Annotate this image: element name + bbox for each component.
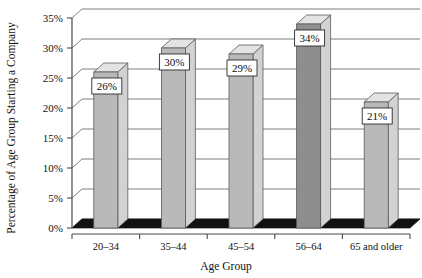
value-label-5: 21% bbox=[362, 108, 392, 124]
chart-canvas: 0%5%10%15%20%25%30%35% 26%30%29%34%21% 2… bbox=[0, 0, 422, 278]
x-axis-title: Age Group bbox=[200, 260, 252, 273]
value-label-2: 30% bbox=[159, 54, 189, 70]
y-axis-title: Percentage of Age Group Starting a Compa… bbox=[5, 22, 18, 234]
value-label-3: 29% bbox=[227, 60, 257, 76]
bar-side-face bbox=[321, 15, 331, 228]
value-label-text: 21% bbox=[367, 110, 387, 122]
y-tick-label: 15% bbox=[43, 132, 63, 144]
bar-front-face bbox=[297, 24, 321, 228]
y-tick-label: 5% bbox=[48, 192, 63, 204]
category-label: 20–34 bbox=[93, 241, 120, 252]
category-label: 45–54 bbox=[228, 241, 255, 252]
value-label-text: 30% bbox=[164, 56, 184, 68]
value-label-text: 29% bbox=[232, 62, 252, 74]
value-label-text: 26% bbox=[97, 80, 117, 92]
bar-front-face bbox=[94, 72, 118, 228]
y-tick-label: 30% bbox=[43, 42, 63, 54]
bars-group bbox=[94, 15, 398, 228]
y-tick-label: 25% bbox=[43, 72, 63, 84]
value-label-text: 34% bbox=[300, 32, 320, 44]
y-tick-label: 35% bbox=[43, 12, 63, 24]
bar-front-face bbox=[229, 54, 253, 228]
y-tick-label: 20% bbox=[43, 102, 63, 114]
x-tick-group bbox=[72, 234, 410, 239]
category-label: 56–64 bbox=[295, 241, 322, 252]
y-tick-group: 0%5%10%15%20%25%30%35% bbox=[43, 12, 72, 234]
bar-chart: 0%5%10%15%20%25%30%35% 26%30%29%34%21% 2… bbox=[0, 0, 422, 278]
y-tick-label: 0% bbox=[48, 222, 63, 234]
category-label: 35–44 bbox=[160, 241, 187, 252]
bar-4 bbox=[297, 15, 331, 228]
bar-front-face bbox=[161, 48, 185, 228]
value-label-4: 34% bbox=[295, 30, 325, 46]
value-label-1: 26% bbox=[92, 78, 122, 94]
category-label-group: 20–3435–4445–5456–6465 and older bbox=[93, 241, 403, 252]
gridline bbox=[72, 9, 420, 18]
y-tick-label: 10% bbox=[43, 162, 63, 174]
category-label: 65 and older bbox=[350, 241, 403, 252]
